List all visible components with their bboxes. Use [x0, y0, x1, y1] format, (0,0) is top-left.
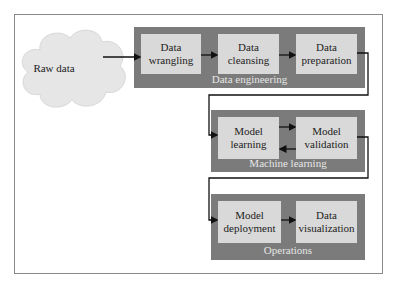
connectors: [0, 0, 397, 288]
